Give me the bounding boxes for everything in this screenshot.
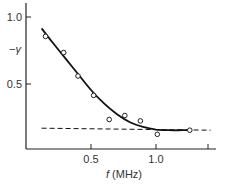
- y-tick-label-1.0: 1.0: [7, 11, 22, 23]
- data-point-marker: [107, 117, 112, 122]
- fit-curve: [42, 28, 190, 130]
- series-layer: [42, 28, 211, 136]
- data-point-marker: [76, 74, 81, 79]
- y-axis-label: −γ: [9, 43, 22, 55]
- data-point-marker: [61, 50, 66, 55]
- data-point-marker: [123, 113, 128, 118]
- x-axis-label: f (MHz): [106, 168, 142, 180]
- data-point-marker: [188, 128, 193, 133]
- chart: 1.0 0.5 −γ 0.5 1.0 f (MHz): [0, 0, 225, 185]
- data-point-marker: [91, 93, 96, 98]
- x-tick-label-1.0: 1.0: [148, 153, 163, 165]
- data-point-marker: [155, 132, 160, 137]
- y-tick-label-0.5: 0.5: [7, 78, 22, 90]
- x-axis-unit: (MHz): [109, 168, 142, 180]
- data-point-marker: [43, 34, 48, 39]
- data-point-marker: [138, 119, 143, 124]
- x-tick-label-0.5: 0.5: [83, 153, 98, 165]
